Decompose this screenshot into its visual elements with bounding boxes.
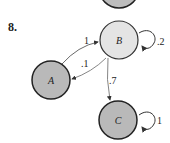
node-b-label: B (116, 35, 122, 46)
edge-a-to-b-label: 1 (84, 35, 89, 46)
edge-c-self-loop (139, 112, 155, 129)
node-top-partial (99, 0, 139, 8)
edge-c-self-loop-label: 1 (157, 115, 162, 126)
edge-b-to-a-label: .1 (81, 58, 89, 69)
node-c-label: C (115, 115, 122, 126)
node-c: C (99, 101, 137, 139)
edge-b-to-a (72, 58, 106, 79)
node-a: A (32, 61, 70, 99)
edge-b-self-loop-label: .2 (157, 36, 165, 47)
edge-b-to-c-label: .7 (109, 75, 117, 86)
edge-b-self-loop (139, 31, 155, 49)
edge-a-to-b (62, 42, 98, 64)
node-a-label: A (47, 75, 55, 86)
markov-chain-diagram: B A C 1 .1 .7 .2 1 (0, 0, 170, 143)
node-b: B (100, 21, 138, 59)
